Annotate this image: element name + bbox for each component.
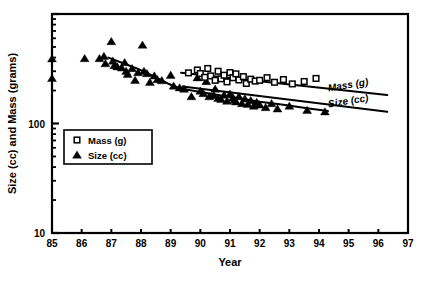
x-axis-title: Year [218, 256, 242, 268]
data-point-mass [224, 79, 230, 85]
plot-frame [52, 14, 408, 233]
data-point-mass [257, 78, 263, 84]
data-point-mass [233, 71, 239, 77]
x-axis-tick-label: 86 [76, 238, 88, 249]
data-point-mass [202, 75, 208, 81]
data-point-mass [301, 79, 307, 85]
x-axis-tick-label: 93 [284, 238, 296, 249]
x-axis-tick-label: 97 [402, 238, 414, 249]
data-point-mass [281, 77, 287, 83]
x-axis-tick-label: 88 [135, 238, 147, 249]
legend-label-mass: Mass (g) [88, 135, 127, 146]
x-axis-tick-label: 85 [46, 238, 58, 249]
x-axis-tick-label: 91 [224, 238, 236, 249]
x-axis-tick-label: 96 [373, 238, 385, 249]
legend-label-size: Size (cc) [88, 150, 127, 161]
y-axis-title: Size (cc) and Mass (grams) [6, 53, 18, 195]
legend: Mass (g)Size (cc) [64, 130, 152, 164]
legend-marker-mass [74, 137, 80, 143]
x-axis-tick-label: 92 [254, 238, 266, 249]
x-axis-tick-label: 90 [195, 238, 207, 249]
scatter-chart: 8586878889909192939495969710100YearSize … [0, 0, 432, 282]
data-point-mass [205, 66, 211, 72]
x-axis-tick-label: 95 [343, 238, 355, 249]
x-axis-tick-label: 89 [165, 238, 177, 249]
y-axis-tick-label: 100 [28, 119, 45, 130]
y-axis-tick-label: 10 [34, 228, 46, 239]
data-point-mass [215, 68, 221, 74]
data-point-mass [290, 81, 296, 87]
x-axis-tick-label: 94 [313, 238, 325, 249]
data-point-mass [272, 79, 278, 85]
data-point-mass [264, 75, 270, 81]
chart-figure: 8586878889909192939495969710100YearSize … [0, 0, 432, 282]
data-point-mass [212, 78, 218, 84]
x-axis-tick-label: 87 [106, 238, 118, 249]
data-point-mass [241, 74, 247, 80]
data-point-mass [313, 76, 319, 82]
data-point-mass [221, 72, 227, 78]
data-point-mass [186, 70, 192, 76]
